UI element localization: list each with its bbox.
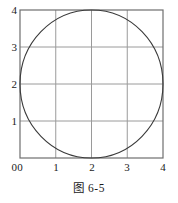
x-tick-label-2: 2 (85, 162, 99, 173)
y-tick-label-2: 2 (3, 79, 17, 90)
x-tick-label-4: 4 (156, 162, 170, 173)
x-tick-label-1: 1 (49, 162, 63, 173)
figure-caption: 图 6-5 (0, 181, 178, 195)
plot-area (0, 0, 178, 178)
figure-container: 4 3 2 1 0 0 1 2 3 4 图 6-5 (0, 0, 178, 203)
x-tick-label-0: 0 (13, 162, 27, 173)
x-tick-label-3: 3 (120, 162, 134, 173)
y-tick-label-4: 4 (3, 5, 17, 16)
y-tick-label-1: 1 (3, 116, 17, 127)
y-tick-label-3: 3 (3, 42, 17, 53)
